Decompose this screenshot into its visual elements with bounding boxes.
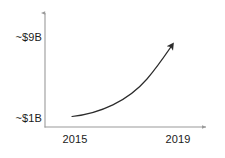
x-axis-tick-label-end: 2019 bbox=[156, 133, 200, 145]
trend-curve bbox=[72, 46, 172, 117]
x-axis-tick-label-start: 2015 bbox=[53, 133, 97, 145]
y-axis-tick-label-high: ~$9B bbox=[16, 31, 42, 43]
growth-chart: ~$9B ~$1B 2015 2019 bbox=[0, 0, 225, 158]
y-axis-tick-label-low: ~$1B bbox=[16, 112, 42, 124]
